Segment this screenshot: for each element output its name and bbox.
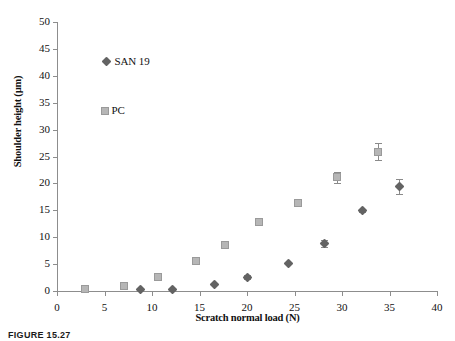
y-tick-label-wrap: 10: [0, 231, 50, 242]
y-tick-label-wrap: 40: [0, 70, 50, 81]
square-marker-icon: [101, 107, 109, 115]
data-point-san-19: [210, 279, 220, 289]
figure-container: 05101520253035404550 0510152025303540 SA…: [0, 0, 455, 341]
data-point-pc: [221, 241, 229, 249]
legend-item-pc: PC: [101, 105, 124, 116]
error-bar-cap: [396, 194, 403, 195]
error-bar-cap: [334, 183, 341, 184]
data-point-pc: [192, 257, 200, 265]
data-point-pc: [120, 282, 128, 290]
y-tick-label: 5: [16, 258, 50, 269]
y-tick-label-wrap: 15: [0, 204, 50, 215]
y-axis-title: Shoulder height (µm): [12, 27, 23, 217]
legend-item-san-19: SAN 19: [101, 56, 149, 67]
data-point-pc: [154, 273, 162, 281]
data-point-san-19: [358, 205, 368, 215]
y-tick-label: 10: [16, 231, 50, 242]
data-point-pc: [255, 218, 263, 226]
x-tick-mark: [437, 292, 438, 296]
data-point-pc: [374, 148, 382, 156]
y-tick-label-wrap: 25: [0, 151, 50, 162]
x-tick-mark: [57, 292, 58, 296]
x-tick-mark: [295, 292, 296, 296]
plot-area: SAN 19PC: [57, 22, 437, 291]
diamond-marker-icon: [102, 56, 112, 66]
error-bar-cap: [396, 179, 403, 180]
x-axis-title: Scratch normal load (N): [57, 312, 438, 323]
y-tick-label: 50: [16, 16, 50, 27]
x-tick-mark: [152, 292, 153, 296]
y-tick-label-wrap: 0: [0, 285, 50, 296]
data-point-san-19: [168, 284, 178, 294]
data-point-san-19: [394, 181, 404, 191]
x-tick-mark: [247, 292, 248, 296]
y-tick-label-wrap: 20: [0, 177, 50, 188]
error-bar-cap: [375, 160, 382, 161]
data-point-pc: [294, 199, 302, 207]
x-tick-mark: [105, 292, 106, 296]
y-tick-label-wrap: 50: [0, 16, 50, 27]
y-tick-label-wrap: 30: [0, 124, 50, 135]
y-tick-label-wrap: 45: [0, 43, 50, 54]
x-tick-mark: [390, 292, 391, 296]
x-tick-mark: [200, 292, 201, 296]
legend-label: SAN 19: [114, 56, 149, 67]
y-tick-label-wrap: 5: [0, 258, 50, 269]
data-point-san-19: [243, 272, 253, 282]
error-bar-cap: [375, 143, 382, 144]
figure-caption: FIGURE 15.27: [8, 330, 71, 340]
legend-label: PC: [111, 105, 124, 116]
data-point-san-19: [284, 258, 294, 268]
y-tick-label: 0: [16, 285, 50, 296]
data-point-pc: [333, 173, 341, 181]
x-tick-mark: [342, 292, 343, 296]
data-point-san-19: [136, 284, 146, 294]
data-point-pc: [81, 285, 89, 293]
y-tick-label-wrap: 35: [0, 97, 50, 108]
